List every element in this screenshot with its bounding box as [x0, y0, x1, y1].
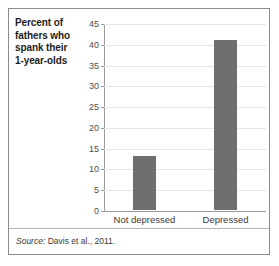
gridline — [104, 190, 266, 191]
source-note: Source: Davis et al., 2011. — [16, 236, 115, 246]
gridline — [104, 45, 266, 46]
chart-region: Percent of fathers who spank their 1-yea… — [9, 9, 269, 228]
gridline — [104, 24, 266, 25]
bar — [214, 40, 237, 210]
gridline — [104, 128, 266, 129]
y-axis-tick-mark — [101, 45, 104, 46]
y-axis-tick-label: 5 — [94, 185, 99, 195]
y-axis-tick-label: 25 — [89, 102, 99, 112]
bar — [133, 156, 156, 210]
y-axis-tick-label: 20 — [89, 123, 99, 133]
y-axis-line — [104, 24, 105, 212]
y-axis-tick-mark — [101, 66, 104, 67]
y-axis-tick-mark — [101, 107, 104, 108]
y-axis-tick-mark — [101, 128, 104, 129]
y-axis-tick-label: 45 — [89, 19, 99, 29]
gridline — [104, 86, 266, 87]
y-axis-tick-mark — [101, 24, 104, 25]
y-axis-tick-mark — [101, 190, 104, 191]
source-label: Source: — [16, 236, 45, 246]
source-citation: Davis et al., 2011. — [45, 236, 115, 246]
gridline — [104, 107, 266, 108]
source-divider — [9, 228, 269, 229]
y-axis-tick-label: 40 — [89, 40, 99, 50]
y-axis-caption: Percent of fathers who spank their 1-yea… — [15, 17, 89, 67]
y-axis-tick-mark — [101, 211, 104, 212]
y-axis-caption-line-4: 1-year-olds — [15, 55, 89, 68]
figure-frame: Percent of fathers who spank their 1-yea… — [8, 8, 270, 255]
y-axis-caption-line-2: fathers who — [15, 30, 89, 43]
y-axis-tick-label: 15 — [89, 144, 99, 154]
gridline — [104, 66, 266, 67]
y-axis-caption-line-1: Percent of — [15, 17, 89, 30]
gridline — [104, 169, 266, 170]
x-axis-tick-label: Not depressed — [114, 214, 176, 225]
y-axis-tick-label: 35 — [89, 61, 99, 71]
plot-area: 051015202530354045 Not depressedDepresse… — [104, 24, 266, 211]
y-axis-tick-mark — [101, 149, 104, 150]
y-axis-caption-line-3: spank their — [15, 42, 89, 55]
y-axis-tick-label: 0 — [94, 206, 99, 216]
x-axis-baseline — [104, 211, 266, 212]
y-axis-tick-label: 30 — [89, 81, 99, 91]
y-axis-tick-mark — [101, 169, 104, 170]
gridline — [104, 149, 266, 150]
y-axis-tick-mark — [101, 86, 104, 87]
y-axis-tick-label: 10 — [89, 164, 99, 174]
x-axis-tick-label: Depressed — [203, 214, 249, 225]
